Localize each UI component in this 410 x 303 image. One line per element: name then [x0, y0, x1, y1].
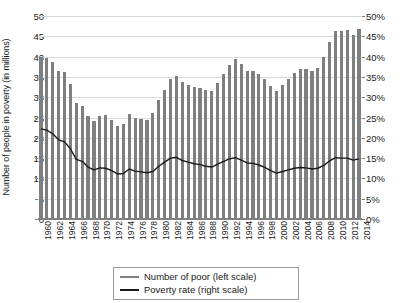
x-axis-tick-label: 1986: [198, 221, 206, 240]
y-axis-right-tick-label: 5%: [366, 194, 406, 203]
line-series-poverty-rate: [38, 16, 362, 219]
x-axis-tick-label: 1962: [56, 221, 64, 240]
x-axis-tick-label: 2008: [327, 221, 335, 240]
x-axis-tick-label: 1966: [80, 221, 88, 240]
y-axis-right-tick-label: 50%: [366, 12, 406, 21]
y-axis-right-tick-label: 40%: [366, 52, 406, 61]
y-axis-right-tick-mark: [362, 158, 365, 159]
chart-legend: Number of poor (left scale) Poverty rate…: [113, 267, 299, 300]
x-axis-tick-label: 1996: [257, 221, 265, 240]
x-axis-tick-label: 1982: [174, 221, 182, 240]
y-axis-right-tick-label: 45%: [366, 32, 406, 41]
gridline: [38, 219, 362, 220]
legend-swatch-number-of-poor: [120, 276, 139, 278]
x-axis-tick-label: 1970: [103, 221, 111, 240]
legend-label-poverty-rate: Poverty rate (right scale): [144, 284, 247, 295]
x-axis-tick-label: 1976: [139, 221, 147, 240]
x-axis-tick-label: 1994: [245, 221, 253, 240]
y-axis-right-tick-mark: [362, 178, 365, 179]
poverty-chart: Number of people in poverty (in millions…: [0, 0, 410, 303]
y-axis-right-tick-mark: [362, 36, 365, 37]
x-axis-tick-label: 1980: [162, 221, 170, 240]
y-axis-right-tick-mark: [362, 219, 365, 220]
legend-swatch-poverty-rate: [120, 289, 139, 291]
y-axis-right-tick-label: 20%: [366, 133, 406, 142]
x-axis-tick-label: 2010: [339, 221, 347, 240]
x-axis-tick-label: 1988: [209, 221, 217, 240]
y-axis-left-title: Number of people in poverty (in millions…: [0, 0, 14, 233]
x-axis-tick-label: 1960: [44, 221, 52, 240]
y-axis-right-tick-mark: [362, 57, 365, 58]
x-axis-tick-label: 2014: [363, 221, 371, 240]
legend-label-number-of-poor: Number of poor (left scale): [144, 271, 256, 282]
x-axis-tick-label: 1992: [233, 221, 241, 240]
y-axis-right-tick-mark: [362, 97, 365, 98]
y-axis-right-tick-label: 15%: [366, 154, 406, 163]
plot-area: [38, 16, 362, 219]
legend-item-number-of-poor: Number of poor (left scale): [118, 270, 294, 283]
x-axis-ticks: 1960196219641966196819701972197419761978…: [38, 221, 362, 267]
y-axis-right-tick-label: 10%: [366, 174, 406, 183]
y-axis-right-tick-mark: [362, 199, 365, 200]
legend-item-poverty-rate: Poverty rate (right scale): [118, 283, 294, 296]
x-axis-tick-label: 1990: [221, 221, 229, 240]
x-axis-tick-label: 2002: [292, 221, 300, 240]
x-axis-tick-label: 1984: [186, 221, 194, 240]
y-axis-right-tick-mark: [362, 16, 365, 17]
y-axis-left-title-text: Number of people in poverty (in millions…: [1, 38, 11, 195]
y-axis-right-tick-label: 30%: [366, 93, 406, 102]
x-axis-line: [38, 218, 362, 219]
y-axis-right-tick-label: 25%: [366, 113, 406, 122]
x-axis-tick-label: 2006: [315, 221, 323, 240]
x-axis-tick-label: 1964: [68, 221, 76, 240]
x-axis-tick-label: 1972: [115, 221, 123, 240]
x-axis-tick-label: 2012: [351, 221, 359, 240]
x-axis-tick-label: 1978: [150, 221, 158, 240]
y-axis-right-tick-label: 0%: [366, 215, 406, 224]
y-axis-right-tick-mark: [362, 77, 365, 78]
x-axis-tick-label: 2000: [280, 221, 288, 240]
poverty-rate-line: [41, 129, 359, 174]
y-axis-right-tick-mark: [362, 138, 365, 139]
x-axis-tick-label: 1974: [127, 221, 135, 240]
x-axis-tick-label: 2004: [304, 221, 312, 240]
x-axis-tick-label: 1968: [92, 221, 100, 240]
x-axis-tick-label: 1998: [268, 221, 276, 240]
y-axis-right-tick-mark: [362, 118, 365, 119]
y-axis-right-tick-label: 35%: [366, 72, 406, 81]
